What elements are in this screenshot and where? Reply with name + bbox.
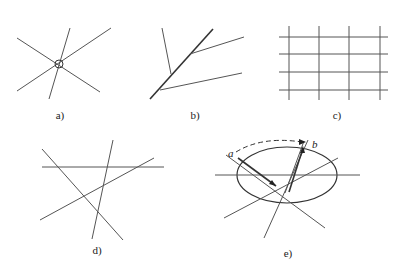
panel-label-d: d) (92, 244, 102, 257)
panel-e: a b (215, 138, 360, 238)
panel-a (17, 28, 111, 99)
rotation-arc-icon (236, 140, 302, 152)
arrow-a-icon (238, 158, 276, 186)
panel-b (150, 28, 244, 99)
label-a: a (228, 147, 234, 159)
panel-label-a: a) (56, 109, 65, 122)
label-b: b (312, 138, 318, 150)
panel-d (40, 140, 164, 240)
panel-label-b: b) (190, 109, 200, 122)
panel-label-c: c) (333, 109, 342, 122)
arrow-b-icon (289, 148, 303, 192)
panel-c (279, 26, 388, 100)
rotated-line-double (285, 141, 304, 193)
diagram-canvas: a b a) b) c) d) e) (0, 0, 403, 276)
panel-label-e: e) (284, 247, 293, 260)
